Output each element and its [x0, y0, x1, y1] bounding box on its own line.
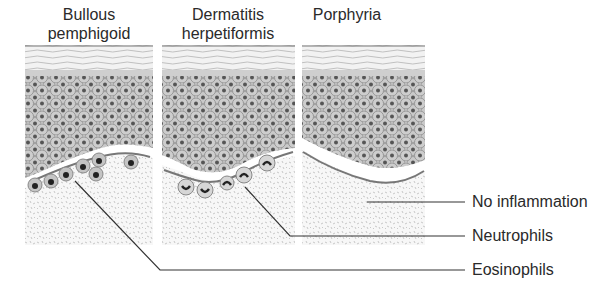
label-neutrophils: Neutrophils: [472, 227, 553, 245]
label-eosinophils: Eosinophils: [472, 261, 554, 279]
panel-porphyria: [302, 45, 425, 245]
skin-diagram: [0, 0, 604, 295]
panel-dermatitis-herpetiformis: [162, 45, 295, 245]
label-no-inflammation: No inflammation: [472, 193, 588, 211]
panel-bullous-pemphigoid: [25, 45, 153, 245]
